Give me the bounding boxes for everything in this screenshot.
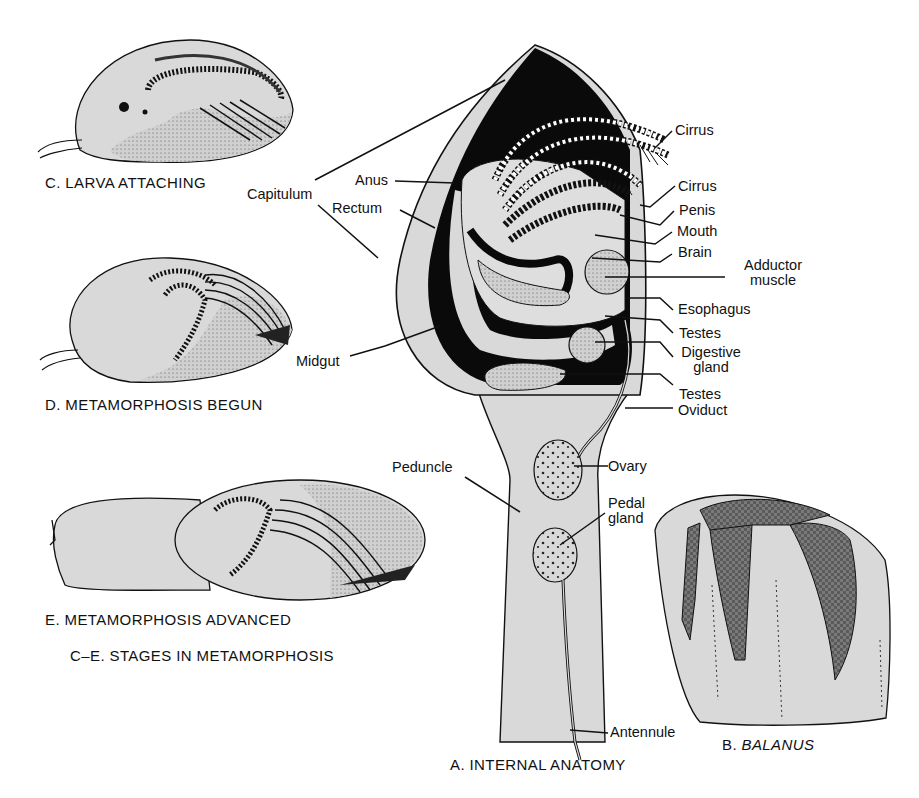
label-penis: Penis: [679, 203, 715, 218]
caption-panel-c: C. LARVA ATTACHING: [45, 174, 206, 191]
balanus-drawing: [655, 495, 890, 725]
caption-panel-a: A. INTERNAL ANATOMY: [450, 756, 626, 773]
label-adductor-line1: Adductor: [728, 258, 818, 273]
caption-panel-e: E. METAMORPHOSIS ADVANCED: [45, 611, 291, 628]
label-digestive-line1: Digestive: [672, 345, 750, 360]
label-testes-lower: Testes: [679, 387, 721, 402]
label-testes-upper: Testes: [679, 326, 721, 341]
label-anus: Anus: [355, 173, 388, 188]
label-antennule: Antennule: [610, 725, 675, 740]
label-digestive-gland: Digestive gland: [672, 345, 750, 375]
caption-panel-b-prefix: B.: [722, 736, 742, 753]
label-midgut: Midgut: [296, 354, 340, 369]
metamorphosis-advanced-drawing: [50, 480, 425, 600]
internal-anatomy-drawing: [397, 45, 668, 760]
label-digestive-line2: gland: [672, 360, 750, 375]
label-capitulum: Capitulum: [247, 187, 312, 202]
caption-stages-c-e: C–E. STAGES IN METAMORPHOSIS: [70, 647, 334, 664]
caption-panel-b-genus: BALANUS: [742, 736, 815, 753]
label-cirrus-lower: Cirrus: [678, 179, 717, 194]
caption-panel-b: B. BALANUS: [722, 736, 814, 753]
label-ovary: Ovary: [608, 459, 647, 474]
label-brain: Brain: [678, 245, 712, 260]
label-pedal-line2: gland: [608, 511, 645, 526]
label-peduncle: Peduncle: [392, 460, 452, 475]
metamorphosis-begun-drawing: [40, 258, 292, 383]
label-mouth: Mouth: [677, 224, 717, 239]
label-adductor-muscle: Adductor muscle: [728, 258, 818, 288]
larva-attaching-drawing: [38, 40, 293, 162]
label-esophagus: Esophagus: [678, 302, 751, 317]
label-cirrus-upper: Cirrus: [675, 123, 714, 138]
label-pedal-line1: Pedal: [608, 496, 645, 511]
label-oviduct: Oviduct: [678, 403, 727, 418]
caption-panel-d: D. METAMORPHOSIS BEGUN: [45, 396, 263, 413]
label-adductor-line2: muscle: [728, 273, 818, 288]
label-rectum: Rectum: [332, 201, 382, 216]
label-pedal-gland: Pedal gland: [608, 496, 645, 526]
